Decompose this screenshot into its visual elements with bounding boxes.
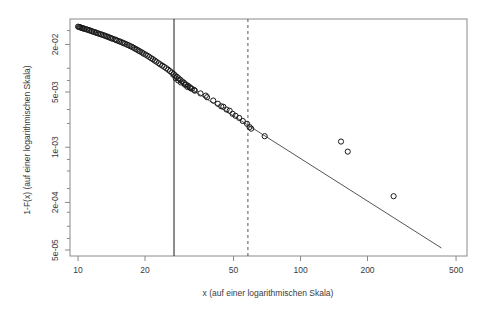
x-axis-title: x (auf einer logarithmischen Skala) — [203, 288, 334, 298]
x-tick-label: 50 — [229, 265, 239, 275]
survival-function-log-log-plot: 2e-025e-031e-032e-045e-05 10205010020050… — [0, 0, 491, 311]
x-tick-label: 200 — [360, 265, 374, 275]
y-tick-label: 5e-03 — [50, 81, 60, 103]
y-tick-label: 5e-05 — [50, 239, 60, 261]
y-tick-label: 2e-04 — [50, 191, 60, 213]
x-tick-label: 10 — [73, 265, 83, 275]
chart-plot-root: 2e-025e-031e-032e-045e-05 10205010020050… — [0, 0, 491, 311]
y-axis-title: 1-F(x) (auf einer logarithmischen Skala) — [22, 65, 32, 214]
x-tick-label: 500 — [449, 265, 463, 275]
y-tick-label: 1e-03 — [50, 136, 60, 158]
y-tick-label: 2e-02 — [50, 33, 60, 55]
x-tick-label: 100 — [293, 265, 307, 275]
x-tick-label: 20 — [140, 265, 150, 275]
